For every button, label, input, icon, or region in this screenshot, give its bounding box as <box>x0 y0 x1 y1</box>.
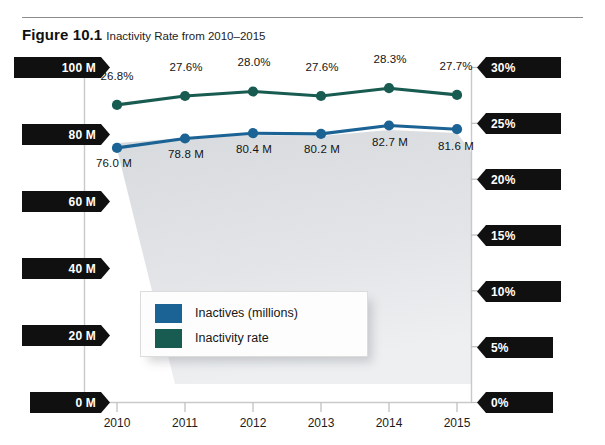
right-axis-tick-0pct: 0% <box>477 392 553 413</box>
data-point-inactives-2015 <box>452 124 462 134</box>
data-label-inactives-2011: 78.8 M <box>168 148 204 160</box>
data-point-inactives-2014 <box>384 120 394 130</box>
legend-label-inactivity-rate: Inactivity rate <box>195 331 269 345</box>
page-divider-rule <box>22 17 583 18</box>
left-axis-tick-40m: 40 M <box>22 258 110 279</box>
data-label-rate-2013: 27.6% <box>305 61 338 73</box>
legend-swatch-inactivity-rate <box>155 329 182 348</box>
left-axis-tick-60m: 60 M <box>22 191 110 212</box>
x-axis-label-2014: 2014 <box>376 416 403 430</box>
right-axis-tick-10pct: 10% <box>477 281 561 302</box>
data-point-rate-2013 <box>316 91 326 101</box>
data-label-rate-2014: 28.3% <box>373 53 406 65</box>
data-label-inactives-2013: 80.2 M <box>304 143 340 155</box>
left-axis-tick-0m: 0 M <box>30 392 110 413</box>
chart-container: 100 M 80 M 60 M 40 M 20 M 0 M 30% 25% 20… <box>0 48 605 445</box>
right-axis-tick-25pct: 25% <box>477 113 561 134</box>
x-axis-label-2015: 2015 <box>444 416 471 430</box>
data-label-inactives-2015: 81.6 M <box>438 140 474 152</box>
data-label-inactives-2012: 80.4 M <box>236 143 272 155</box>
legend-label-inactives: Inactives (millions) <box>195 306 298 320</box>
x-axis-label-2012: 2012 <box>240 416 267 430</box>
legend-item-inactives: Inactives (millions) <box>155 301 367 325</box>
data-point-inactives-2012 <box>248 128 258 138</box>
data-label-rate-2011: 27.6% <box>169 61 202 73</box>
right-axis-tick-5pct: 5% <box>477 337 553 358</box>
x-axis-label-2013: 2013 <box>308 416 335 430</box>
left-axis-tick-20m: 20 M <box>22 325 110 346</box>
chart-legend: Inactives (millions) Inactivity rate <box>140 291 368 357</box>
right-axis-tick-30pct: 30% <box>477 57 561 78</box>
figure-caption: Figure 10.1Inactivity Rate from 2010–201… <box>22 26 265 44</box>
x-axis-ticks <box>117 403 457 413</box>
data-label-rate-2012: 28.0% <box>237 56 270 68</box>
x-axis-label-2011: 2011 <box>172 416 198 430</box>
chart-plot-svg <box>0 48 605 445</box>
right-axis-tick-15pct: 15% <box>477 225 561 246</box>
left-axis-tick-80m: 80 M <box>22 124 110 145</box>
data-point-rate-2015 <box>452 90 462 100</box>
right-axis-tick-20pct: 20% <box>477 169 561 190</box>
data-point-inactives-2011 <box>180 133 190 143</box>
figure-number: Figure 10.1 <box>22 26 102 43</box>
legend-item-inactivity-rate: Inactivity rate <box>155 326 367 350</box>
data-point-rate-2010 <box>112 100 122 110</box>
data-point-rate-2012 <box>248 86 258 96</box>
data-label-inactives-2014: 82.7 M <box>372 136 408 148</box>
data-label-rate-2010: 26.8% <box>100 70 133 82</box>
data-label-inactives-2010: 76.0 M <box>96 157 132 169</box>
data-label-rate-2015: 27.7% <box>439 60 472 72</box>
x-axis-label-2010: 2010 <box>104 416 131 430</box>
data-point-inactives-2010 <box>112 143 122 153</box>
legend-swatch-inactives <box>155 304 182 323</box>
data-point-inactives-2013 <box>316 129 326 139</box>
series-line-inactivity-rate <box>112 83 462 110</box>
left-axis-tick-100m: 100 M <box>14 57 110 78</box>
data-point-rate-2014 <box>384 83 394 93</box>
data-point-rate-2011 <box>180 91 190 101</box>
figure-title: Inactivity Rate from 2010–2015 <box>106 30 265 42</box>
